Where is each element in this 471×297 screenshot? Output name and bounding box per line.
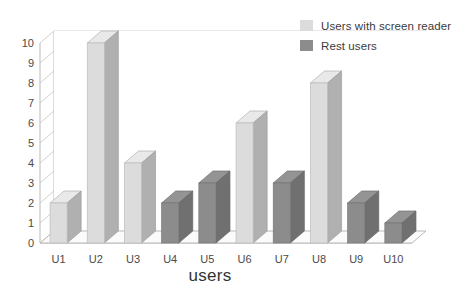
x-tick-label: U7 bbox=[262, 254, 302, 265]
x-tick-label: U6 bbox=[225, 254, 265, 265]
x-tick-label: U2 bbox=[76, 254, 116, 265]
x-tick-label: U4 bbox=[150, 254, 190, 265]
x-axis-title: users bbox=[0, 266, 420, 286]
legend-swatch-icon bbox=[300, 20, 313, 31]
x-tick-label: U8 bbox=[299, 254, 339, 265]
chart-legend: Users with screen reader Rest users bbox=[300, 17, 468, 57]
legend-item[interactable]: Users with screen reader bbox=[300, 17, 468, 34]
legend-swatch-icon bbox=[300, 40, 313, 51]
x-tick-label: U5 bbox=[187, 254, 227, 265]
x-tick-label: U9 bbox=[336, 254, 376, 265]
x-tick-label: U1 bbox=[39, 254, 79, 265]
legend-item[interactable]: Rest users bbox=[300, 37, 468, 54]
x-tick-label: U3 bbox=[113, 254, 153, 265]
bar-chart: 109876543210 U1U2U3U4U5U6U7U8U9U10 users… bbox=[0, 0, 471, 297]
legend-item-label: Rest users bbox=[321, 40, 377, 52]
legend-item-label: Users with screen reader bbox=[321, 20, 451, 32]
x-tick-label: U10 bbox=[373, 254, 413, 265]
